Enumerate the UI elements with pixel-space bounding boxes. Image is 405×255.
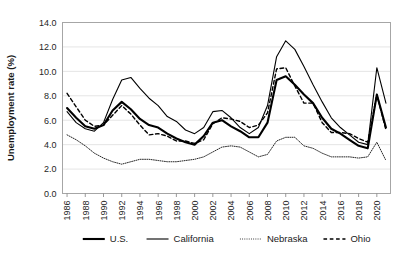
x-axis-tick-label: 2004	[226, 201, 236, 221]
y-axis-title: Unemployment rate (%)	[5, 55, 16, 161]
x-axis-tick-label: 1994	[135, 201, 145, 221]
x-axis-tick-label: 2002	[208, 201, 218, 221]
chart-canvas: Unemployment rate (%) 0.02.04.06.08.010.…	[0, 0, 405, 255]
x-axis-tick-label: 1996	[154, 201, 164, 221]
x-axis-tick-label: 2008	[263, 201, 273, 221]
x-axis-tick-label: 2020	[372, 201, 382, 221]
x-axis-tick-label: 1992	[117, 201, 127, 221]
x-axis-tick-label: 2012	[299, 201, 309, 221]
y-axis-tick-label: 14.0	[39, 18, 57, 28]
x-axis-tick-label: 1990	[99, 201, 109, 221]
y-axis-tick-label: 12.0	[39, 42, 57, 52]
legend-label-ohio: Ohio	[350, 233, 370, 244]
x-axis-tick-label: 2010	[281, 201, 291, 221]
y-axis-tick-label: 2.0	[44, 164, 57, 174]
x-axis-tick-label: 1986	[62, 201, 72, 221]
legend-label-nebraska: Nebraska	[267, 233, 308, 244]
x-axis-tick-label: 1988	[81, 201, 91, 221]
x-axis-tick-label: 2016	[336, 201, 346, 221]
legend-label-california: California	[174, 233, 215, 244]
unemployment-rate-line-chart: Unemployment rate (%) 0.02.04.06.08.010.…	[0, 0, 405, 255]
x-axis-tick-label: 2006	[245, 201, 255, 221]
legend-label-u-s: U.S.	[110, 233, 128, 244]
x-axis-tick-label: 2000	[190, 201, 200, 221]
x-axis-tick-label: 2014	[318, 201, 328, 221]
x-axis-tick-label: 1998	[172, 201, 182, 221]
y-axis-tick-label: 8.0	[44, 91, 57, 101]
x-axis-tick-label: 2018	[354, 201, 364, 221]
y-axis-tick-label: 4.0	[44, 140, 57, 150]
y-axis-tick-label: 6.0	[44, 116, 57, 126]
y-axis-tick-label: 10.0	[39, 67, 57, 77]
y-axis-tick-label: 0.0	[44, 189, 57, 199]
